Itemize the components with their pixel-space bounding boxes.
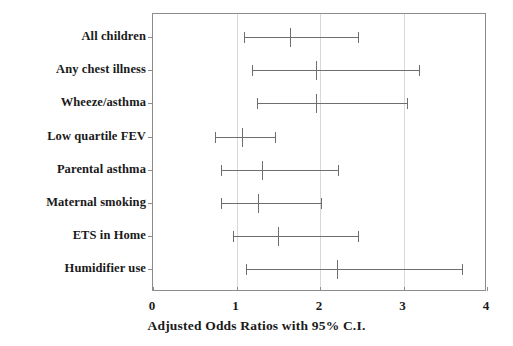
gridline-x-3 [404,14,405,290]
ci-row [153,194,485,212]
ci-upper-cap [275,132,276,143]
x-tick-label-3: 3 [399,299,406,312]
odds-ratio-marker [290,28,291,47]
x-axis-tick-2 [320,287,321,291]
odds-ratio-marker [258,194,259,213]
plot-area [152,13,486,291]
odds-ratio-marker [262,161,263,180]
ci-whisker-line [221,170,338,171]
ci-row [153,128,485,146]
ci-row [153,227,485,245]
ci-whisker-line [252,70,419,71]
odds-ratio-marker [337,260,338,279]
ci-lower-cap [221,198,222,209]
ci-whisker-line [257,103,407,104]
category-label: Low quartile FEV [47,130,146,143]
ci-whisker-line [233,236,357,237]
x-axis-tick-0 [153,287,154,291]
gridline-x-1 [237,14,238,290]
x-tick-label-2: 2 [316,299,323,312]
category-label: Any chest illness [56,63,146,76]
ci-row [153,28,485,46]
ci-lower-cap [246,264,247,275]
ci-lower-cap [244,32,245,43]
category-label-column: All childrenAny chest illnessWheeze/asth… [0,0,146,346]
x-axis-tick-1 [237,287,238,291]
ci-upper-cap [321,198,322,209]
ci-upper-cap [358,231,359,242]
ci-lower-cap [221,165,222,176]
x-axis-tick-4 [487,287,488,291]
ci-row [153,260,485,278]
x-tick-label-1: 1 [232,299,239,312]
ci-lower-cap [257,98,258,109]
ci-upper-cap [407,98,408,109]
ci-whisker-line [244,37,358,38]
odds-ratio-marker [242,128,243,147]
ci-lower-cap [252,65,253,76]
x-axis-tick-3 [404,287,405,291]
odds-ratio-marker [316,94,317,113]
ci-upper-cap [358,32,359,43]
ci-whisker-line [215,137,275,138]
ci-row [153,94,485,112]
category-label: Parental asthma [57,163,146,176]
forest-plot-figure: All childrenAny chest illnessWheeze/asth… [0,0,513,346]
x-tick-label-4: 4 [483,299,490,312]
gridline-x-2 [320,14,321,290]
category-label: All children [81,30,146,43]
ci-upper-cap [462,264,463,275]
category-label: Maternal smoking [46,196,146,209]
ci-lower-cap [215,132,216,143]
ci-upper-cap [419,65,420,76]
ci-row [153,61,485,79]
x-axis-title: Adjusted Odds Ratios with 95% C.I. [0,318,513,334]
odds-ratio-marker [278,227,279,246]
x-tick-label-0: 0 [149,299,156,312]
category-label: Humidifier use [65,262,146,275]
odds-ratio-marker [316,61,317,80]
category-label: Wheeze/asthma [61,96,146,109]
ci-whisker-line [246,269,462,270]
category-label: ETS in Home [73,229,146,242]
ci-upper-cap [338,165,339,176]
ci-whisker-line [221,203,321,204]
ci-lower-cap [233,231,234,242]
ci-row [153,161,485,179]
